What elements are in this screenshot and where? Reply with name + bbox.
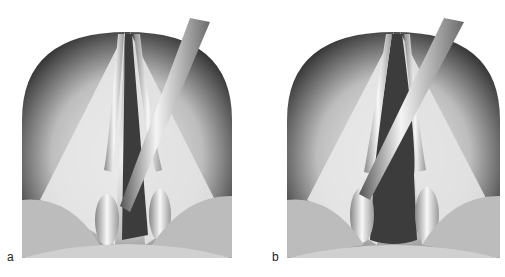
panel-a: a — [0, 0, 252, 277]
larynx-illustration-b — [252, 0, 504, 277]
panel-label-a: a — [7, 250, 14, 264]
panel-label-b: b — [272, 250, 279, 264]
larynx-illustration-a — [0, 0, 252, 277]
panel-b: b — [252, 0, 504, 277]
